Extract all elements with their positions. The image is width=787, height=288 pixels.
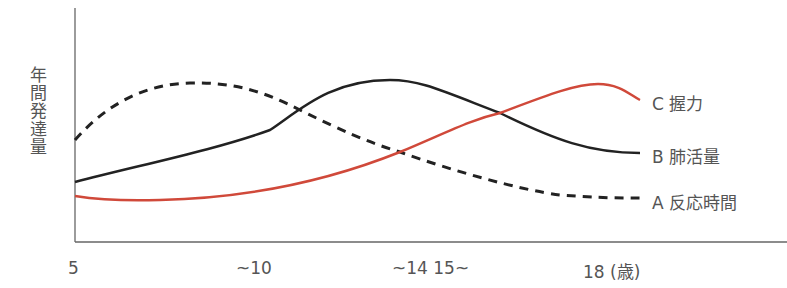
legend-a-reaction-time: A 反応時間 (652, 189, 737, 214)
x-tick-18: 18 (歳) (583, 258, 640, 283)
x-tick-14-15: ~14 15~ (392, 258, 469, 278)
series-a-line (75, 83, 640, 198)
x-tick-5: 5 (68, 258, 79, 278)
y-axis-label: 年間発達量 (28, 66, 48, 156)
series-c-line (75, 84, 640, 200)
legend-b-lung-capacity: B 肺活量 (652, 143, 720, 168)
x-tick-10: ~10 (236, 258, 272, 278)
growth-chart: 年間発達量 5 ~10 ~14 15~ 18 (歳) C 握力 B 肺活量 A … (0, 0, 787, 288)
legend-c-grip-strength: C 握力 (652, 90, 703, 115)
